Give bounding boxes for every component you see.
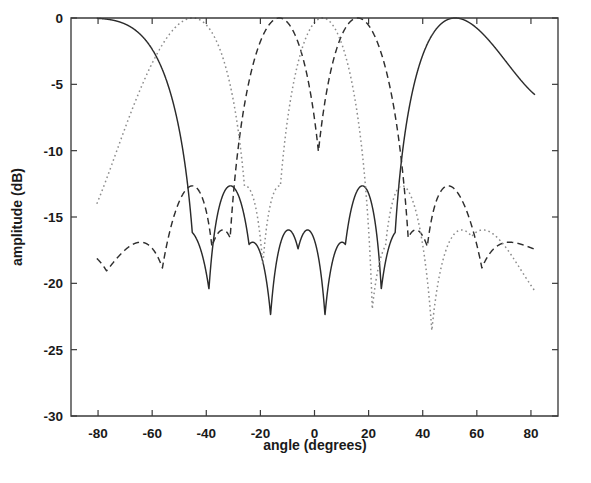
x-axis-label: angle (degrees)	[263, 437, 366, 453]
y-axis-label: amplitude (dB)	[9, 168, 25, 266]
tick-label-group: -80-60-40-20020406080-30-25-20-15-10-50	[43, 11, 538, 441]
y-axis-tick-label: 0	[55, 11, 63, 26]
beam-pattern-plot: -80-60-40-20020406080-30-25-20-15-10-50 …	[0, 0, 591, 483]
y-axis-tick-label: -10	[43, 144, 63, 159]
x-axis-tick-label: 40	[415, 426, 430, 441]
y-axis-tick-label: -5	[51, 77, 63, 92]
y-axis-tick-label: -30	[43, 409, 63, 424]
curve-group	[97, 18, 535, 330]
y-axis-tick-label: -20	[43, 276, 63, 291]
y-axis-tick-label: -15	[43, 210, 63, 225]
x-axis-tick-label: 80	[523, 426, 538, 441]
series-beam-dotted	[97, 18, 535, 330]
x-axis-tick-label: 60	[469, 426, 484, 441]
x-axis-tick-label: -40	[197, 426, 217, 441]
x-axis-tick-label: -80	[88, 426, 108, 441]
beam-pattern-figure: -80-60-40-20020406080-30-25-20-15-10-50 …	[0, 0, 591, 483]
axes-group	[71, 18, 558, 416]
x-axis-tick-label: -60	[142, 426, 162, 441]
series-beam-solid	[97, 18, 535, 314]
y-axis-tick-label: -25	[43, 343, 63, 358]
plot-frame	[71, 18, 558, 416]
series-beam-dashed	[97, 18, 535, 271]
